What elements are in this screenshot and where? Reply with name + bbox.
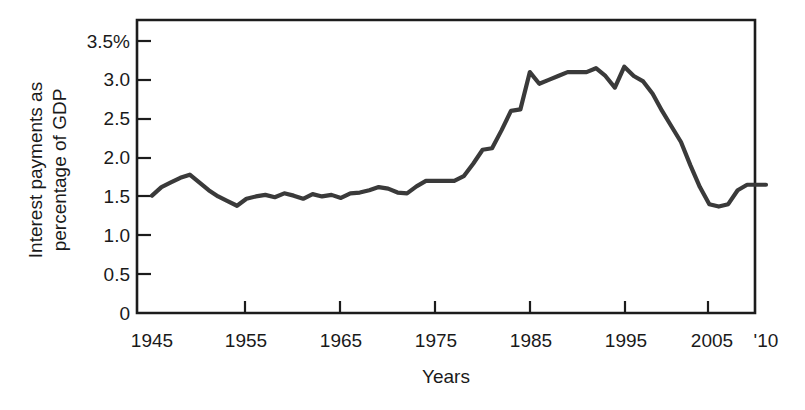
x-tick-label-1995: 1995 <box>605 330 647 351</box>
y-axis-ticks <box>137 41 151 274</box>
chart-figure: Interest payments as percentage of GDP 3… <box>0 0 805 410</box>
y-axis-title-line2: percentage of GDP <box>49 89 70 252</box>
x-tick-label-1975: 1975 <box>415 330 457 351</box>
x-tick-label-1945: 1945 <box>131 330 173 351</box>
y-axis-title-line1: Interest payments as <box>25 82 46 258</box>
plot-frame <box>137 20 755 313</box>
y-tick-label-0-5: 0.5 <box>104 264 130 285</box>
x-axis-title: Years <box>422 366 470 387</box>
x-tick-label-1965: 1965 <box>320 330 362 351</box>
x-axis-ticks <box>245 301 708 313</box>
y-tick-label-3-0: 3.0 <box>104 69 130 90</box>
x-tick-label-2005: 2005 <box>691 330 733 351</box>
x-tick-label-1955: 1955 <box>225 330 267 351</box>
y-tick-label-0: 0 <box>119 303 130 324</box>
y-tick-label-2-0: 2.0 <box>104 147 130 168</box>
y-axis-tick-labels: 3.5% 3.0 2.5 2.0 1.5 1.0 0.5 0 <box>87 31 130 324</box>
y-tick-label-2-5: 2.5 <box>104 108 130 129</box>
frame-box <box>137 20 755 313</box>
y-tick-label-1-0: 1.0 <box>104 225 130 246</box>
x-axis-tick-labels: 1945 1955 1965 1975 1985 1995 2005 '10 <box>131 330 779 351</box>
y-axis-title: Interest payments as percentage of GDP <box>25 82 70 258</box>
y-tick-label-3-5: 3.5% <box>87 31 130 52</box>
line-chart: Interest payments as percentage of GDP 3… <box>0 0 805 410</box>
data-series-line <box>152 67 766 207</box>
x-tick-label-1985: 1985 <box>510 330 552 351</box>
y-tick-label-1-5: 1.5 <box>104 186 130 207</box>
x-tick-label-2010: '10 <box>754 330 779 351</box>
